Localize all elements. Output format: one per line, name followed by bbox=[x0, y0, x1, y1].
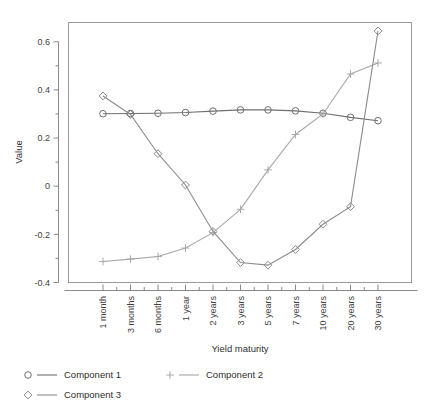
legend-label: Component 1 bbox=[64, 369, 121, 380]
legend-label: Component 2 bbox=[206, 369, 263, 380]
x-tick-label: 5 years bbox=[263, 296, 273, 326]
y-tick-label: 0.4 bbox=[37, 85, 50, 95]
x-tick-label: 6 months bbox=[153, 296, 163, 334]
x-tick-label: 20 years bbox=[346, 296, 356, 331]
y-tick-label: -0.2 bbox=[34, 230, 50, 240]
x-tick-label: 1 year bbox=[181, 296, 191, 321]
y-tick-label: 0.2 bbox=[37, 133, 50, 143]
x-tick-label: 7 years bbox=[291, 296, 301, 326]
y-tick-label: -0.4 bbox=[34, 278, 50, 288]
y-axis-title: Value bbox=[13, 140, 24, 164]
x-tick-label: 30 years bbox=[373, 296, 383, 331]
x-axis-title: Yield maturity bbox=[211, 343, 268, 354]
x-tick-label: 3 years bbox=[236, 296, 246, 326]
legend-label: Component 3 bbox=[64, 389, 121, 400]
x-tick-label: 2 years bbox=[208, 296, 218, 326]
x-tick-label: 1 month bbox=[98, 296, 108, 329]
y-tick-label: 0.6 bbox=[37, 37, 50, 47]
pca-loadings-line-chart: -0.4-0.200.20.40.6 1 month3 months6 mont… bbox=[0, 0, 433, 415]
x-tick-label: 3 months bbox=[126, 296, 136, 334]
y-tick-label: 0 bbox=[45, 181, 50, 191]
x-tick-label: 10 years bbox=[318, 296, 328, 331]
chart-figure: -0.4-0.200.20.40.6 1 month3 months6 mont… bbox=[0, 0, 433, 415]
